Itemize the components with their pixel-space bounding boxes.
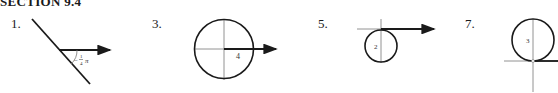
figure-1-slanted-line [32,19,90,84]
figure-1-diagram: − 1 4 π [32,19,110,84]
figure-1-angle-sign: − [74,57,78,65]
figure-3-diagram: 4 [195,19,277,80]
figures-canvas: − 1 4 π 4 2 3 [0,0,558,93]
figure-1-angle-numerator: 1 [80,54,83,59]
figure-5-radius-label: 2 [374,43,378,51]
figure-7-diagram: 3 [504,19,558,92]
figure-7-radius-label: 3 [526,37,530,45]
figure-1-angle-denominator: 4 [80,61,83,66]
figure-3-radius-label: 4 [236,52,240,61]
figure-7-origin-point [532,60,535,63]
figure-5-diagram: 2 [357,19,434,63]
figure-1-angle-pi: π [85,57,89,65]
